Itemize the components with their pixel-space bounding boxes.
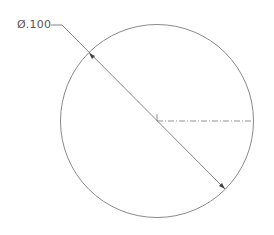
- arrow-top-icon: [89, 53, 95, 59]
- diameter-dimension-label[interactable]: Ø.100: [17, 18, 51, 31]
- leader-line: [51, 25, 225, 189]
- drawing-canvas: [0, 0, 274, 235]
